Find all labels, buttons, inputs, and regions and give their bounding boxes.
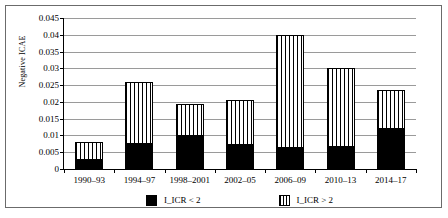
legend-entry-high: I_ICR > 2 [279, 195, 334, 206]
y-tick-mark [60, 135, 64, 136]
bar-2014–17 [377, 90, 405, 169]
y-tick-mark [60, 18, 64, 19]
gridline [64, 85, 416, 86]
legend-entry-low: I_ICR < 2 [146, 195, 201, 206]
y-tick-mark [60, 68, 64, 69]
chart-legend: I_ICR < 2 I_ICR > 2 [63, 192, 416, 208]
x-tick-mark [315, 169, 316, 173]
y-tick-label: 0.005 [39, 147, 59, 157]
y-tick-label: 0 [55, 164, 60, 174]
x-tick-mark [64, 169, 65, 173]
x-tick-label: 1990–93 [73, 175, 105, 185]
bar-1990–93 [75, 142, 103, 169]
bar-segment-high [276, 35, 304, 148]
x-tick-label: 2002–05 [224, 175, 256, 185]
y-tick-label: 0.045 [39, 13, 59, 23]
y-tick-mark [60, 152, 64, 153]
gridline [64, 18, 416, 19]
y-axis-title: Negative ICAE [18, 7, 27, 117]
y-tick-label: 0.025 [39, 80, 59, 90]
x-tick-mark [215, 169, 216, 173]
bar-2006–09 [276, 35, 304, 169]
chart-figure: Negative ICAE 00.0050.010.0150.020.0250.… [0, 0, 448, 218]
bar-segment-low [226, 145, 254, 169]
x-tick-label: 2010–13 [325, 175, 357, 185]
x-tick-mark [165, 169, 166, 173]
x-tick-mark [114, 169, 115, 173]
y-tick-label: 0.02 [43, 97, 59, 107]
bar-segment-low [377, 129, 405, 169]
bar-2010–13 [327, 68, 355, 169]
x-tick-label: 2006–09 [275, 175, 307, 185]
y-tick-label: 0.01 [43, 130, 59, 140]
bar-segment-high [75, 142, 103, 160]
legend-label-low: I_ICR < 2 [164, 195, 201, 205]
legend-swatch-solid-icon [146, 195, 157, 206]
bar-segment-high [327, 68, 355, 147]
bar-segment-low [176, 136, 204, 169]
bar-segment-low [125, 144, 153, 169]
gridline [64, 35, 416, 36]
y-tick-mark [60, 102, 64, 103]
y-tick-mark [60, 85, 64, 86]
y-tick-label: 0.04 [43, 30, 59, 40]
y-tick-mark [60, 35, 64, 36]
bar-segment-high [125, 82, 153, 144]
y-tick-mark [60, 52, 64, 53]
bar-segment-high [377, 90, 405, 129]
x-tick-mark [265, 169, 266, 173]
x-tick-mark [366, 169, 367, 173]
y-tick-mark [60, 119, 64, 120]
legend-swatch-striped-icon [279, 195, 290, 206]
plot-area: 00.0050.010.0150.020.0250.030.0350.040.0… [63, 18, 416, 170]
bar-segment-high [176, 104, 204, 137]
bar-segment-low [75, 160, 103, 169]
x-tick-mark [416, 169, 417, 173]
gridline [64, 68, 416, 69]
bar-2002–05 [226, 100, 254, 169]
x-tick-label: 1998–2001 [169, 175, 210, 185]
bar-segment-low [276, 148, 304, 169]
legend-label-high: I_ICR > 2 [297, 195, 334, 205]
gridline [64, 52, 416, 53]
y-tick-label: 0.03 [43, 63, 59, 73]
y-tick-label: 0.035 [39, 47, 59, 57]
x-tick-label: 1994–97 [124, 175, 156, 185]
bar-1994–97 [125, 82, 153, 169]
bar-1998–2001 [176, 104, 204, 169]
x-tick-label: 2014–17 [375, 175, 407, 185]
y-tick-label: 0.015 [39, 114, 59, 124]
bar-segment-low [327, 147, 355, 169]
bar-segment-high [226, 100, 254, 144]
